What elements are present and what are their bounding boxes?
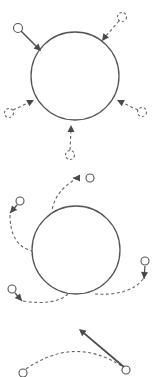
trajectory-path (95, 279, 143, 294)
diagram-layer (5, 13, 150, 377)
particle-left-end (19, 369, 27, 377)
particle-icon (16, 197, 24, 205)
panel-converging (5, 13, 147, 160)
diagram-canvas (0, 0, 159, 377)
particle-icon (14, 24, 23, 33)
arrowhead-icon (117, 100, 125, 106)
particle-left (5, 100, 35, 118)
particle-icon (138, 108, 147, 117)
trajectory-path (121, 102, 138, 110)
arrowhead-icon (26, 100, 34, 106)
particle-icon (5, 109, 14, 118)
particle-right (117, 100, 147, 117)
target-sphere (31, 32, 119, 120)
particle-icon (118, 13, 127, 22)
particle-icon (66, 151, 75, 160)
particle-lower-left (8, 285, 68, 302)
trajectory-path (70, 129, 71, 150)
particle-icon (19, 369, 27, 377)
panel-recoil (19, 329, 130, 377)
particle-top-right (102, 13, 127, 42)
arrowhead-icon (68, 125, 75, 132)
particle-upper-right (52, 174, 94, 211)
particle-icon (141, 257, 149, 265)
particle-icon (86, 174, 94, 182)
trajectory-path (23, 294, 68, 302)
arrowhead-icon (73, 175, 80, 182)
particle-bottom (66, 125, 75, 160)
arrowhead-icon (141, 272, 148, 279)
recoil-arrow (84, 333, 124, 367)
panel-deflecting (8, 174, 149, 302)
trajectory-path (10, 215, 32, 251)
particle-top-left (14, 24, 42, 52)
particle-right (95, 257, 149, 294)
trajectory-path (13, 102, 30, 110)
trajectory-path (21, 31, 38, 48)
particle-icon (8, 285, 16, 293)
target-sphere (32, 206, 120, 294)
trajectory-path (105, 21, 119, 37)
particle-upper-left (10, 197, 32, 251)
